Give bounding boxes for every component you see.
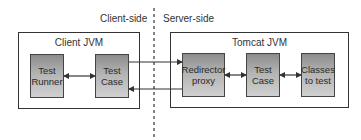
connectors-layer bbox=[0, 0, 361, 140]
